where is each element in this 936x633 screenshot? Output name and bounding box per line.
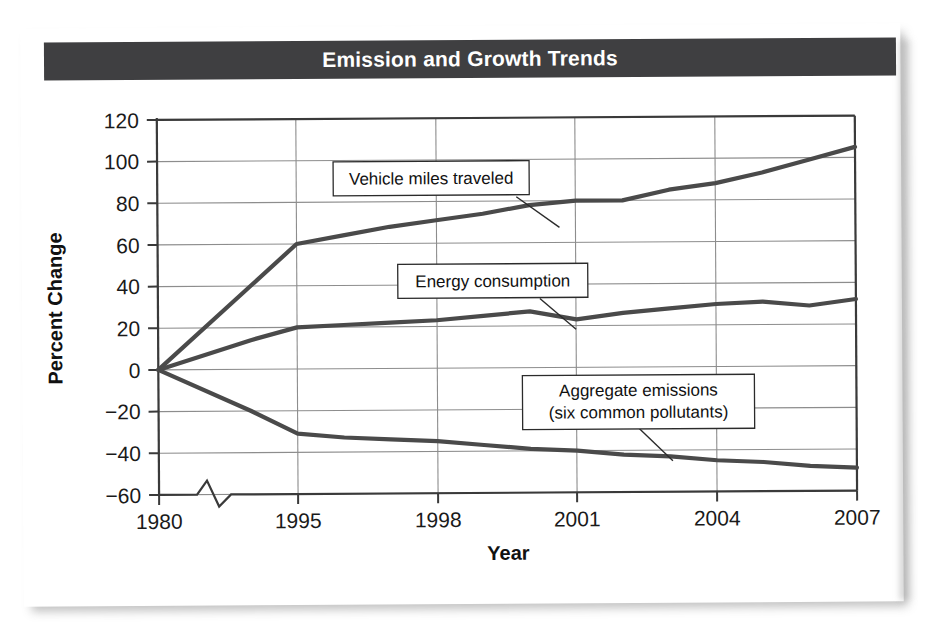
callout-vehicle-miles-traveled: Vehicle miles traveled (333, 161, 529, 196)
y-axis-tick-labels: 120 100 80 60 40 20 0 −20 −40 −60 (103, 109, 141, 507)
chart-canvas: 120 100 80 60 40 20 0 −20 −40 −60 Percen… (0, 0, 936, 633)
y-tick-minus60: −60 (105, 484, 141, 507)
x-axis-tick-labels: 1980 1995 1998 2001 2004 2007 (136, 505, 881, 533)
y-tick-0: 0 (129, 359, 141, 382)
callout-label-vehicle-miles-traveled: Vehicle miles traveled (349, 169, 514, 189)
x-tick-2007: 2007 (834, 505, 881, 528)
x-tick-1980: 1980 (136, 510, 183, 533)
x-tick-2004: 2004 (694, 506, 741, 529)
y-tick-80: 80 (116, 192, 139, 215)
y-tick-minus20: −20 (105, 400, 141, 423)
callout-aggregate-emissions: Aggregate emissions (six common pollutan… (522, 374, 754, 429)
x-axis-title: Year (487, 542, 530, 564)
x-tick-2001: 2001 (554, 507, 601, 530)
y-tick-60: 60 (116, 234, 139, 257)
y-tick-100: 100 (104, 150, 139, 173)
y-tick-40: 40 (116, 275, 139, 298)
x-tick-1998: 1998 (415, 508, 462, 531)
series-line-energy-consumption (158, 299, 856, 370)
x-tick-1995: 1995 (275, 509, 322, 532)
y-tick-20: 20 (117, 317, 140, 340)
callout-energy-consumption: Energy consumption (398, 263, 588, 298)
callout-label-energy-consumption: Energy consumption (415, 271, 570, 291)
callout-label-aggregate-emissions-line1: Aggregate emissions (559, 380, 718, 400)
y-axis-title: Percent Change (43, 232, 66, 384)
emission-growth-trends-chart: 120 100 80 60 40 20 0 −20 −40 −60 Percen… (0, 0, 936, 633)
y-tick-120: 120 (104, 109, 139, 132)
y-tick-minus40: −40 (105, 442, 141, 465)
x-axis-line-with-break (159, 477, 857, 507)
callout-label-aggregate-emissions-line2: (six common pollutants) (549, 402, 729, 422)
